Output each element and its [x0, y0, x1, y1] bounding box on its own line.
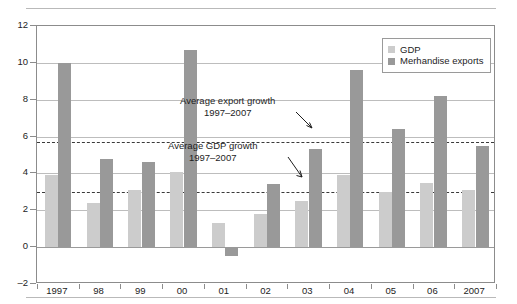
y-axis-tick-mark [30, 136, 36, 137]
annotation-average-export-growth: Average export growth 1997–2007 [180, 95, 275, 118]
bar-merchandise-exports-99 [142, 162, 155, 247]
y-axis-tick-mark [30, 246, 36, 247]
annotation-gdp-line1: Average GDP growth [168, 140, 257, 151]
legend-item-merchandise-exports: Merhandise exports [388, 56, 483, 66]
chart-legend: GDP Merhandise exports [382, 38, 491, 73]
x-axis-tick [496, 284, 497, 289]
y-axis-tick-mark [30, 209, 36, 210]
bar-merchandise-exports-04 [350, 70, 363, 247]
x-axis-tick-label: 98 [93, 286, 104, 296]
y-axis-tick-mark [30, 62, 36, 63]
bar-merchandise-exports-1997 [58, 63, 71, 247]
x-axis-labels: 19979899000102030405062007 [36, 286, 495, 300]
y-axis-tick-label: 12 [17, 20, 28, 30]
x-axis-tick-label: 06 [427, 286, 438, 296]
bar-merchandise-exports-01 [225, 247, 238, 256]
y-axis-tick-label: 2 [23, 205, 28, 215]
bar-gdp-98 [87, 203, 100, 247]
x-axis-tick-label: 01 [218, 286, 229, 296]
top-divider-rule [26, 8, 496, 9]
bar-merchandise-exports-05 [392, 129, 405, 247]
y-axis-labels: 121086420–2 [0, 25, 32, 283]
annotation-gdp-line2: 1997–2007 [168, 152, 257, 164]
bar-gdp-03 [295, 201, 308, 247]
bar-gdp-1997 [45, 175, 58, 247]
bar-gdp-02 [254, 214, 267, 247]
legend-item-gdp: GDP [388, 45, 483, 55]
annotation-export-line1: Average export growth [180, 95, 275, 106]
bar-gdp-2007 [462, 190, 475, 247]
bar-merchandise-exports-02 [267, 184, 280, 247]
y-axis-tick-label: –2 [17, 278, 28, 288]
x-axis-tick-label: 1997 [46, 286, 67, 296]
y-axis-tick-label: 8 [23, 94, 28, 104]
y-axis-tick-label: 4 [23, 168, 28, 178]
legend-swatch-merchandise-exports [388, 58, 395, 65]
annotation-export-line2: 1997–2007 [180, 107, 275, 119]
y-axis-tick-label: 0 [23, 241, 28, 251]
x-axis-tick-label: 04 [344, 286, 355, 296]
bar-merchandise-exports-06 [434, 96, 447, 247]
legend-swatch-gdp [388, 46, 395, 53]
bar-gdp-05 [379, 192, 392, 247]
y-axis-tick-label: 10 [17, 57, 28, 67]
y-axis-tick-mark [30, 283, 36, 284]
bar-gdp-00 [170, 172, 183, 248]
x-axis-tick-label: 05 [385, 286, 396, 296]
bar-merchandise-exports-2007 [476, 146, 489, 247]
y-axis-tick-mark [30, 99, 36, 100]
y-axis-tick-mark [30, 25, 36, 26]
bar-merchandise-exports-98 [100, 159, 113, 247]
bar-merchandise-exports-03 [309, 149, 322, 247]
bar-gdp-06 [420, 183, 433, 248]
chart-figure: 121086420–2 19979899000102030405062007 G… [0, 0, 517, 304]
x-axis-tick-label: 2007 [464, 286, 485, 296]
bar-gdp-99 [128, 190, 141, 247]
y-axis-tick-label: 6 [23, 131, 28, 141]
x-axis-tick-label: 03 [302, 286, 313, 296]
bar-gdp-04 [337, 175, 350, 247]
legend-label-gdp: GDP [400, 45, 421, 55]
annotation-average-gdp-growth: Average GDP growth 1997–2007 [168, 140, 257, 163]
x-axis-tick-label: 02 [260, 286, 271, 296]
x-axis-tick-label: 00 [177, 286, 188, 296]
y-axis-tick-mark [30, 172, 36, 173]
bar-gdp-01 [212, 223, 225, 247]
x-axis-tick-label: 99 [135, 286, 146, 296]
legend-label-merchandise-exports: Merhandise exports [400, 56, 483, 66]
